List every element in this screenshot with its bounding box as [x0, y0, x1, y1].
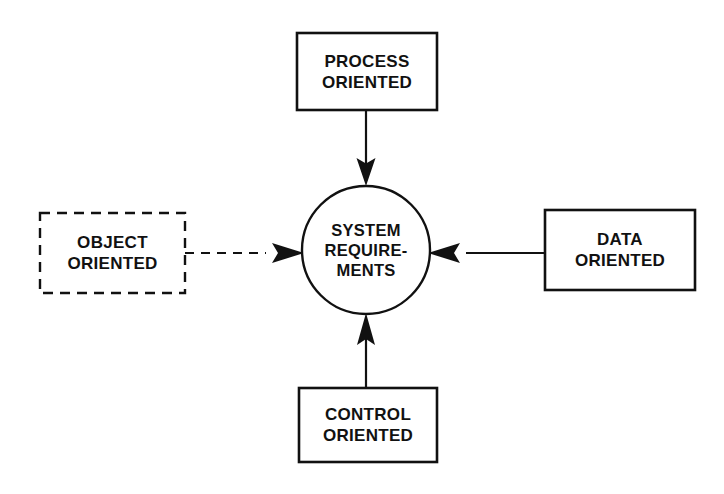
arrowhead-left-data [428, 243, 460, 263]
diagram-vector-layer [0, 0, 724, 494]
connector-object-to-center [185, 243, 304, 263]
diagram-canvas: PROCESS ORIENTED OBJECT ORIENTED DATA OR… [0, 0, 724, 494]
node-box-data-oriented[interactable] [545, 210, 695, 290]
node-box-process-oriented[interactable] [297, 33, 437, 110]
connector-process-to-center [357, 110, 376, 186]
connector-control-to-center [357, 313, 375, 388]
node-box-object-oriented[interactable] [40, 213, 185, 293]
node-box-control-oriented[interactable] [299, 388, 437, 462]
connector-data-to-center [428, 243, 545, 263]
node-circle-system-requirements[interactable] [302, 186, 430, 314]
arrowhead-right-object [272, 243, 304, 263]
